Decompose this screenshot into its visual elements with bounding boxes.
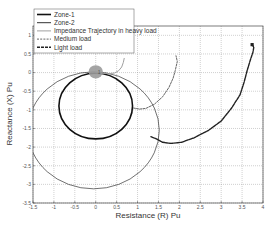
y-tick-label: -3.5 <box>22 200 31 206</box>
y-tick-label: -1.5 <box>22 125 31 131</box>
legend-label: Medium load <box>54 35 92 42</box>
y-tick-label: 0.5 <box>24 51 31 57</box>
legend-label: Zone-2 <box>54 19 75 26</box>
x-tick-label: 0.5 <box>113 204 120 210</box>
x-tick-label: -1 <box>52 204 57 210</box>
y-tick-label: -0.5 <box>22 88 31 94</box>
x-tick-label: 2 <box>178 204 181 210</box>
legend-label: Impedance Trajectory in heavy load <box>54 27 157 35</box>
x-tick-label: 3.5 <box>239 204 246 210</box>
x-axis-label: Resistance (R) Pu <box>116 211 181 220</box>
y-tick-label: -1 <box>27 107 32 113</box>
y-axis-label: Reactance (X) Pu <box>5 82 14 145</box>
x-tick-label: -0.5 <box>71 204 80 210</box>
y-tick-label: -3 <box>27 181 32 187</box>
x-tick-label: 1 <box>136 204 139 210</box>
legend-label: Zone-1 <box>54 11 75 18</box>
y-tick-label: 1 <box>28 32 31 38</box>
x-tick-label: 4 <box>262 204 265 210</box>
x-tick-label: 3 <box>220 204 223 210</box>
y-tick-label: 0 <box>28 69 31 75</box>
legend-label: Light load <box>54 44 83 52</box>
fault-point-blob <box>89 65 103 78</box>
impedance-trajectory-chart: -1.5-1-0.500.511.522.533.5410.50-0.5-1-1… <box>0 0 276 232</box>
fault-point-label: 1 <box>98 69 101 75</box>
light-load-end-marker <box>251 43 254 46</box>
x-tick-label: 2.5 <box>197 204 204 210</box>
x-tick-label: 0 <box>94 204 97 210</box>
x-tick-label: 1.5 <box>155 204 162 210</box>
y-tick-label: -2.5 <box>22 163 31 169</box>
y-tick-label: -2 <box>27 144 32 150</box>
